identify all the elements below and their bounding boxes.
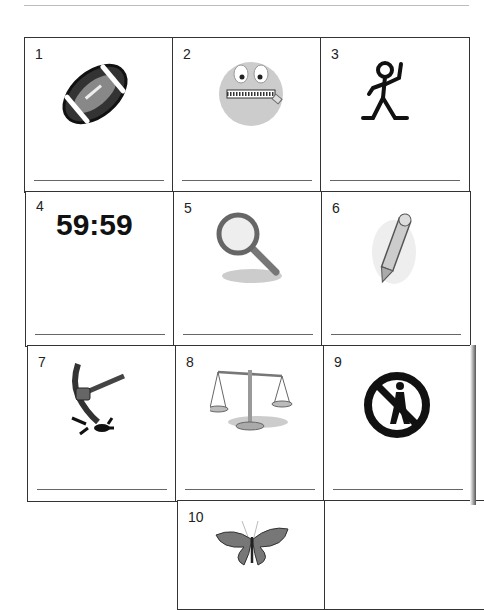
- cell-6: 6: [321, 191, 471, 347]
- no-pedestrian-icon: [362, 370, 432, 440]
- magnifying-glass-icon: [214, 210, 294, 286]
- answer-line[interactable]: [185, 489, 315, 490]
- scales-icon: [210, 364, 294, 440]
- answer-line[interactable]: [331, 334, 461, 335]
- page-top-rule: [24, 5, 469, 6]
- cell-9: 9: [323, 345, 473, 502]
- answer-line[interactable]: [35, 334, 165, 335]
- cell-2: 2: [172, 37, 322, 193]
- cell-5: 5: [173, 191, 323, 347]
- cell-8: 8: [175, 345, 325, 502]
- answer-line[interactable]: [37, 489, 167, 490]
- pencil-icon: [364, 212, 424, 288]
- page-edge-shadow: [470, 345, 476, 505]
- cell-number: 4: [36, 198, 44, 214]
- pickaxe-icon: [68, 362, 138, 438]
- cell-number: 3: [331, 46, 339, 62]
- cell-number: 10: [188, 509, 204, 525]
- cell-number: 2: [183, 46, 191, 62]
- answer-line[interactable]: [330, 180, 460, 181]
- answer-line[interactable]: [183, 334, 313, 335]
- cell-number: 6: [332, 200, 340, 216]
- timer-text: 59:59: [56, 208, 133, 242]
- cell-number: 5: [184, 200, 192, 216]
- cell-number: 1: [35, 46, 43, 62]
- cell-number: 7: [38, 354, 46, 370]
- cell-empty: [324, 500, 484, 610]
- cell-3: 3: [320, 37, 470, 193]
- answer-line[interactable]: [333, 489, 463, 490]
- cell-number: 9: [334, 354, 342, 370]
- stick-figure-icon: [361, 60, 421, 126]
- cell-10: 10: [177, 500, 326, 610]
- butterfly-icon: [214, 519, 290, 567]
- cell-1: 1: [24, 37, 174, 193]
- cell-number: 8: [186, 354, 194, 370]
- zipped-mouth-face-icon: [213, 52, 293, 128]
- football-icon: [55, 54, 135, 134]
- answer-line[interactable]: [182, 180, 312, 181]
- answer-line[interactable]: [34, 180, 164, 181]
- cell-7: 7: [27, 345, 177, 502]
- cell-4: 4 59:59: [25, 191, 175, 347]
